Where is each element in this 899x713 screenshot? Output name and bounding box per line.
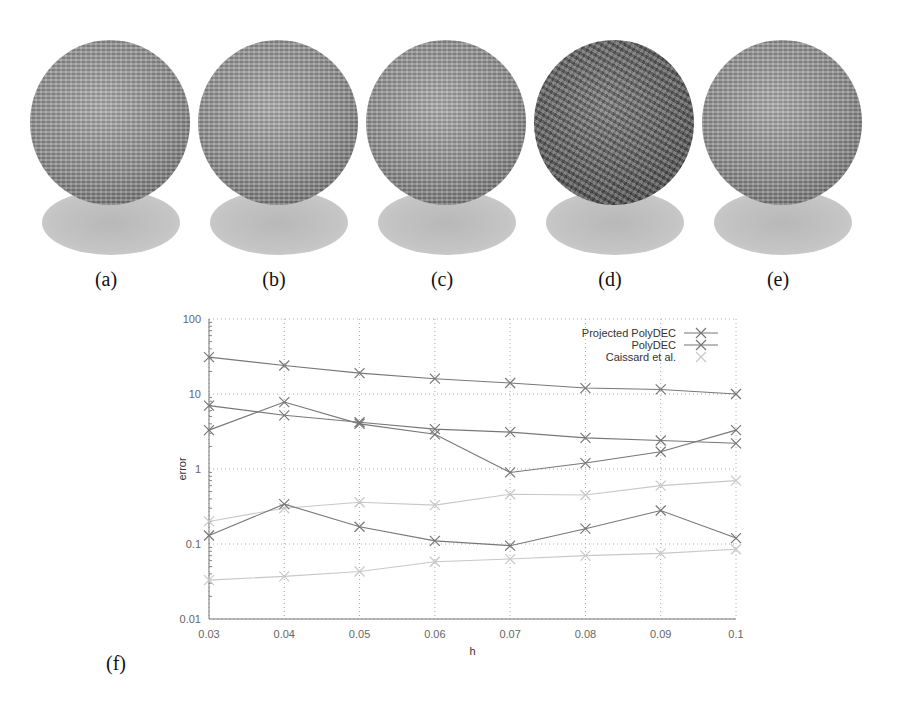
data-point-marker	[731, 425, 741, 435]
legend-label: PolyDEC	[631, 339, 676, 351]
error-chart: 0.010.11101000.030.040.050.060.070.080.0…	[0, 0, 899, 713]
x-axis-label: h	[469, 645, 475, 657]
series-line	[209, 549, 736, 580]
x-tick-label: 0.03	[198, 628, 219, 640]
legend-label: Projected PolyDEC	[582, 327, 676, 339]
y-tick-label: 100	[183, 313, 201, 325]
x-tick-label: 0.06	[424, 628, 445, 640]
x-tick-label: 0.05	[349, 628, 370, 640]
data-point-marker	[656, 505, 666, 515]
y-axis-label: error	[176, 457, 188, 481]
x-tick-label: 0.04	[274, 628, 295, 640]
x-tick-label: 0.09	[650, 628, 671, 640]
y-tick-label: 1	[195, 463, 201, 475]
series-line	[209, 504, 736, 546]
y-tick-label: 0.01	[180, 613, 201, 625]
x-tick-label: 0.1	[728, 628, 743, 640]
legend-label: Caissard et al.	[606, 351, 676, 363]
legend-marker	[696, 352, 706, 362]
data-point-marker	[279, 397, 289, 407]
data-point-marker	[580, 524, 590, 534]
y-tick-label: 0.1	[186, 538, 201, 550]
y-tick-label: 10	[189, 388, 201, 400]
x-tick-label: 0.08	[575, 628, 596, 640]
x-tick-label: 0.07	[499, 628, 520, 640]
caption-f: (f)	[106, 652, 126, 675]
data-point-marker	[731, 533, 741, 543]
